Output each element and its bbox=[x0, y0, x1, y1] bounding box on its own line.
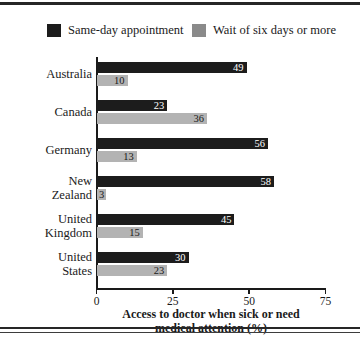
bar-value-label: 58 bbox=[261, 176, 275, 187]
x-tick-label-50: 50 bbox=[243, 295, 255, 307]
category-label-line: New bbox=[0, 174, 92, 188]
x-tick-label-0: 0 bbox=[94, 295, 100, 307]
bar[interactable]: 49 bbox=[97, 62, 247, 73]
bottom-rule-lower bbox=[0, 332, 360, 333]
bar-value-label: 45 bbox=[221, 214, 235, 225]
bar-value-label: 23 bbox=[154, 265, 168, 276]
bottom-rule-upper bbox=[0, 327, 360, 329]
category-label-line: Germany bbox=[0, 143, 92, 157]
bar-value-label: 36 bbox=[193, 113, 207, 124]
category-label-line: Canada bbox=[0, 105, 92, 119]
bar-group: UnitedKingdom4515 bbox=[0, 214, 360, 238]
bar-row: 3 bbox=[97, 189, 326, 200]
x-tick-25 bbox=[172, 289, 174, 294]
category-label-line: United bbox=[0, 212, 92, 226]
bar-row: 36 bbox=[97, 113, 326, 124]
bar-value-label: 10 bbox=[114, 75, 128, 86]
category-label-canada: Canada bbox=[0, 105, 92, 119]
bar[interactable]: 45 bbox=[97, 214, 234, 225]
bar[interactable]: 10 bbox=[97, 75, 128, 86]
bar-group: Canada2336 bbox=[0, 100, 360, 124]
bar[interactable]: 58 bbox=[97, 176, 274, 187]
bar-row: 15 bbox=[97, 227, 326, 238]
bar[interactable]: 13 bbox=[97, 151, 137, 162]
x-tick-75 bbox=[325, 289, 327, 294]
category-label-australia: Australia bbox=[0, 67, 92, 81]
bar[interactable]: 23 bbox=[97, 100, 167, 111]
category-label-united-kingdom: UnitedKingdom bbox=[0, 212, 92, 240]
plot-area: 0255075 Australia4910Canada2336Germany56… bbox=[0, 0, 360, 347]
x-tick-label-75: 75 bbox=[320, 295, 332, 307]
bar-row: 23 bbox=[97, 265, 326, 276]
chart-figure: Same-day appointment Wait of six days or… bbox=[0, 0, 360, 347]
bar-value-label: 13 bbox=[123, 151, 137, 162]
category-label-new-zealand: NewZealand bbox=[0, 174, 92, 202]
bar-group: Germany5613 bbox=[0, 138, 360, 162]
x-tick-0 bbox=[96, 289, 98, 294]
bar[interactable]: 56 bbox=[97, 138, 268, 149]
bar-row: 10 bbox=[97, 75, 326, 86]
x-tick-label-25: 25 bbox=[167, 295, 179, 307]
bar[interactable]: 30 bbox=[97, 252, 189, 263]
category-label-line: States bbox=[0, 264, 92, 278]
category-label-line: Zealand bbox=[0, 188, 92, 202]
category-label-line: Kingdom bbox=[0, 226, 92, 240]
bar-group: UnitedStates3023 bbox=[0, 252, 360, 276]
bar-value-label: 3 bbox=[99, 189, 104, 200]
bar-group: NewZealand583 bbox=[0, 176, 360, 200]
bar-value-label: 56 bbox=[254, 138, 268, 149]
category-label-united-states: UnitedStates bbox=[0, 250, 92, 278]
x-axis-line bbox=[96, 288, 326, 290]
bar-row: 45 bbox=[97, 214, 326, 225]
x-axis-title-line-1: Access to doctor when sick or need bbox=[96, 308, 326, 322]
bar-row: 30 bbox=[97, 252, 326, 263]
bar-row: 49 bbox=[97, 62, 326, 73]
category-label-line: Australia bbox=[0, 67, 92, 81]
bar[interactable]: 36 bbox=[97, 113, 207, 124]
bar[interactable]: 23 bbox=[97, 265, 167, 276]
bar-group: Australia4910 bbox=[0, 62, 360, 86]
x-tick-50 bbox=[248, 289, 250, 294]
category-label-line: United bbox=[0, 250, 92, 264]
bar-row: 13 bbox=[97, 151, 326, 162]
bar-row: 58 bbox=[97, 176, 326, 187]
category-label-germany: Germany bbox=[0, 143, 92, 157]
bar[interactable]: 15 bbox=[97, 227, 143, 238]
bar-value-label: 30 bbox=[175, 252, 189, 263]
bar-value-label: 23 bbox=[154, 100, 168, 111]
x-axis-title: Access to doctor when sick or need medic… bbox=[96, 308, 326, 335]
bar-row: 56 bbox=[97, 138, 326, 149]
bar-row: 23 bbox=[97, 100, 326, 111]
bar-value-label: 49 bbox=[233, 62, 247, 73]
bar-value-label: 15 bbox=[129, 227, 143, 238]
bar[interactable]: 3 bbox=[97, 189, 106, 200]
